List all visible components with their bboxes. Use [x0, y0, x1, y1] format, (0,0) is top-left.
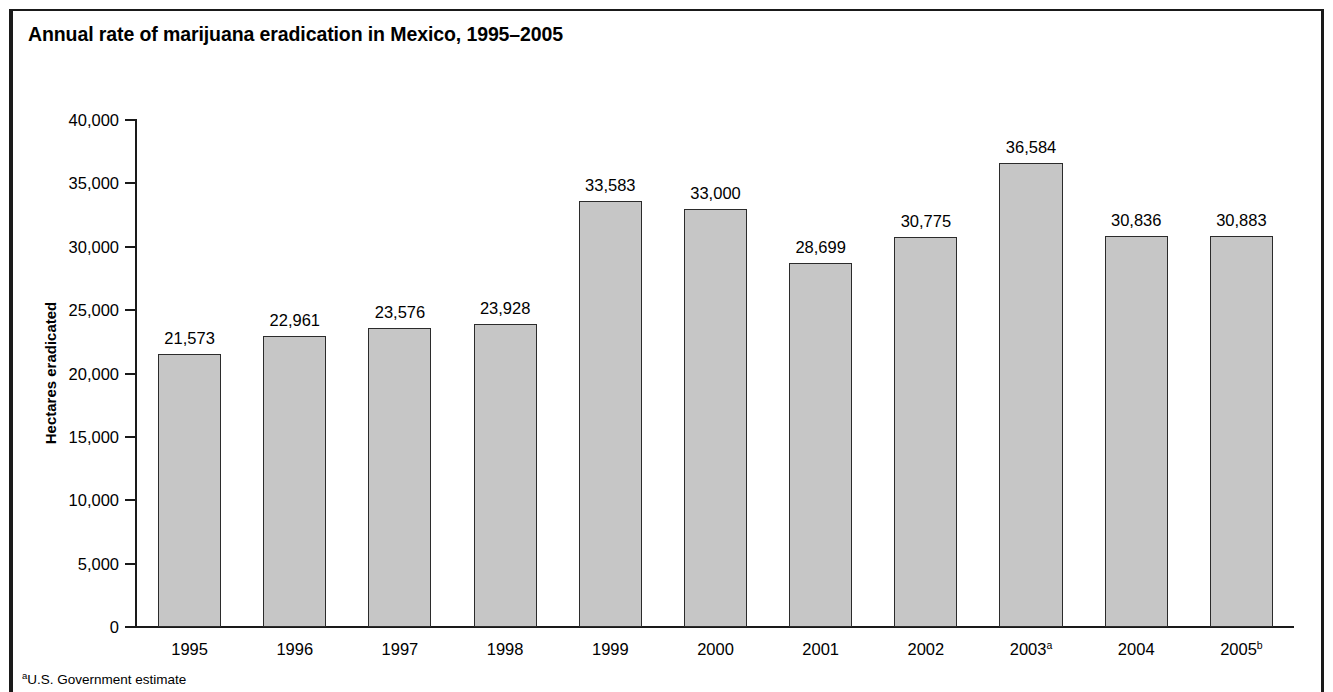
y-tick-label: 30,000	[19, 237, 119, 256]
y-tick-label: 10,000	[19, 491, 119, 510]
y-tick-label: 5,000	[19, 554, 119, 573]
y-tick-label: 15,000	[19, 427, 119, 446]
x-axis-tick-label: 2002	[908, 640, 945, 659]
bar	[1105, 236, 1168, 627]
x-axis-tick-label: 2000	[697, 640, 734, 659]
y-tick-mark	[125, 119, 136, 121]
y-tick-mark	[125, 626, 136, 628]
plot-area: Hectares eradicated 05,00010,00015,00020…	[0, 0, 1333, 692]
y-tick-mark	[125, 246, 136, 248]
x-axis-tick-label: 2003a	[1010, 640, 1053, 659]
y-tick-mark	[125, 309, 136, 311]
y-tick-label: 25,000	[19, 301, 119, 320]
bar-value-label: 22,961	[270, 311, 320, 330]
y-tick-label: 20,000	[19, 364, 119, 383]
x-axis-tick-label: 1998	[487, 640, 524, 659]
y-tick-mark	[125, 436, 136, 438]
bar	[158, 354, 221, 627]
bar-value-label: 28,699	[795, 238, 845, 257]
x-axis-tick-label: 1996	[276, 640, 313, 659]
bar-value-label: 30,836	[1111, 211, 1161, 230]
bar	[894, 237, 957, 627]
bar	[684, 209, 747, 627]
bar-value-label: 36,584	[1006, 138, 1056, 157]
footnote-text: U.S. Government estimate	[27, 672, 186, 687]
bar	[263, 336, 326, 627]
bar	[999, 163, 1062, 627]
bar-value-label: 21,573	[164, 329, 214, 348]
bar	[789, 263, 852, 627]
x-axis-tick-label: 2005b	[1220, 640, 1263, 659]
y-tick-mark	[125, 182, 136, 184]
bar-value-label: 23,928	[480, 299, 530, 318]
bar	[1210, 236, 1273, 627]
x-axis-tick-label: 2001	[802, 640, 839, 659]
x-axis-tick-label: 1999	[592, 640, 629, 659]
bar-value-label: 30,883	[1216, 211, 1266, 230]
bar-value-label: 23,576	[375, 303, 425, 322]
y-tick-mark	[125, 499, 136, 501]
y-tick-mark	[125, 373, 136, 375]
bar-value-label: 30,775	[901, 212, 951, 231]
x-axis-tick-label: 2004	[1118, 640, 1155, 659]
bar-value-label: 33,583	[585, 176, 635, 195]
y-tick-label: 0	[19, 618, 119, 637]
y-tick-mark	[125, 563, 136, 565]
x-axis-tick-label: 1995	[171, 640, 208, 659]
bar	[474, 324, 537, 627]
bar	[579, 201, 642, 627]
y-tick-label: 35,000	[19, 174, 119, 193]
y-tick-label: 40,000	[19, 111, 119, 130]
bar	[368, 328, 431, 627]
footnote: aU.S. Government estimate	[22, 672, 186, 687]
figure-container: Annual rate of marijuana eradication in …	[0, 0, 1333, 692]
x-label-superscript: a	[1046, 639, 1052, 651]
x-label-superscript: b	[1257, 639, 1263, 651]
bar-value-label: 33,000	[690, 184, 740, 203]
x-axis-tick-label: 1997	[382, 640, 419, 659]
